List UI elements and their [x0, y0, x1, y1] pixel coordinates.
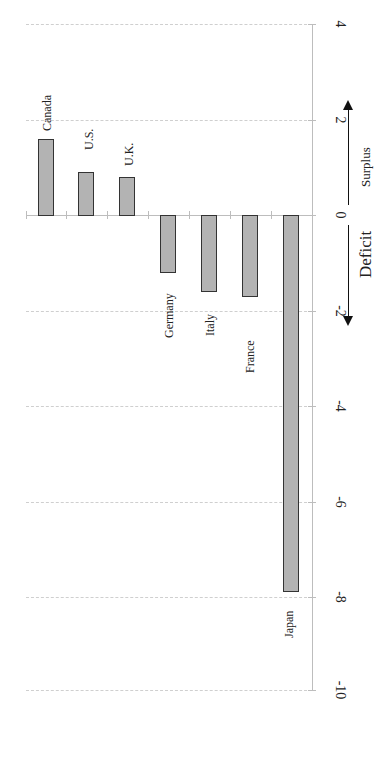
category-tick: [107, 211, 108, 219]
bar-label-canada: Canada: [40, 95, 54, 131]
bar-germany: [160, 215, 176, 273]
bar-label-us: U.S.: [82, 129, 96, 150]
category-tick: [271, 211, 272, 219]
value-axis: [312, 24, 313, 690]
bar-label-italy: Italy: [203, 314, 217, 336]
category-tick: [66, 211, 67, 219]
axis-tick: [308, 120, 316, 121]
gridline: [26, 406, 312, 407]
tick-label: -4: [332, 391, 348, 421]
gridline: [26, 502, 312, 503]
category-tick: [148, 211, 149, 219]
budget-balance-chart: 4 2 0 -2 -4 -6 -8 -10 Canada U.S. U.K. G…: [0, 0, 385, 760]
category-tick: [26, 211, 27, 219]
category-tick: [189, 211, 190, 219]
gridline: [26, 690, 312, 691]
deficit-label: Deficit: [356, 231, 376, 278]
bar-canada: [38, 139, 54, 216]
axis-tick: [308, 502, 316, 503]
surplus-arrow-line: [348, 108, 349, 205]
tick-label: -8: [332, 582, 348, 612]
arrow-up-icon: [343, 100, 353, 110]
tick-label: 4: [332, 9, 348, 39]
bar-label-france: France: [243, 340, 257, 373]
tick-label: -10: [332, 675, 348, 705]
deficit-arrow-line: [348, 225, 349, 318]
axis-tick: [308, 406, 316, 407]
tick-label: 0: [332, 200, 348, 230]
axis-tick: [308, 311, 316, 312]
axis-tick: [308, 597, 316, 598]
bar-us: [78, 172, 94, 216]
surplus-label: Surplus: [358, 147, 374, 187]
gridline: [26, 120, 312, 121]
bar-japan: [283, 215, 299, 592]
bar-label-japan: Japan: [282, 611, 296, 638]
bar-uk: [119, 177, 135, 216]
gridline: [26, 24, 312, 25]
bar-france: [242, 215, 258, 297]
gridline: [26, 597, 312, 598]
bar-label-uk: U.K.: [122, 143, 136, 166]
axis-tick: [308, 690, 316, 691]
axis-tick: [308, 215, 316, 216]
tick-label: -6: [332, 487, 348, 517]
category-tick: [230, 211, 231, 219]
axis-tick: [308, 24, 316, 25]
bar-italy: [201, 215, 217, 292]
bar-label-germany: Germany: [162, 293, 176, 338]
arrow-down-icon: [343, 316, 353, 326]
